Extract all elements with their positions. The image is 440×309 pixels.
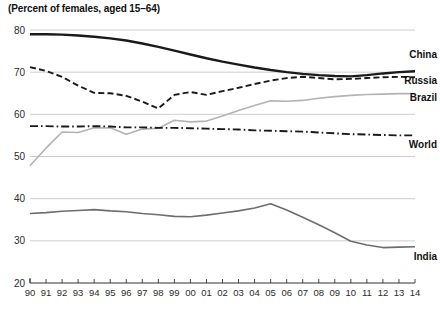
x-axis-tick-label: 05 bbox=[265, 287, 276, 298]
x-axis-tick-label: 10 bbox=[346, 287, 357, 298]
series-line-russia bbox=[30, 67, 415, 108]
x-axis-tick-label: 13 bbox=[394, 287, 405, 298]
x-axis-tick-labels: 9091929394959697989900010203040506070809… bbox=[25, 287, 421, 298]
y-axis-tick-label: 60 bbox=[14, 109, 26, 120]
x-axis-tick-label: 14 bbox=[410, 287, 421, 298]
y-axis-tick-label: 40 bbox=[14, 193, 26, 204]
x-axis-tick-label: 93 bbox=[73, 287, 84, 298]
y-axis-tick-label: 30 bbox=[14, 235, 26, 246]
x-axis-tick-label: 07 bbox=[297, 287, 308, 298]
x-axis bbox=[30, 278, 415, 283]
x-axis-tick-label: 00 bbox=[185, 287, 196, 298]
series-line-china bbox=[30, 34, 415, 76]
x-axis-tick-label: 06 bbox=[281, 287, 292, 298]
x-axis-tick-label: 09 bbox=[330, 287, 341, 298]
x-axis-tick-label: 95 bbox=[105, 287, 116, 298]
x-axis-tick-label: 08 bbox=[313, 287, 324, 298]
series-label-world: World bbox=[409, 139, 437, 150]
x-axis-tick-label: 98 bbox=[153, 287, 164, 298]
x-axis-tick-label: 04 bbox=[249, 287, 260, 298]
x-axis-tick-label: 02 bbox=[217, 287, 228, 298]
x-axis-tick-label: 01 bbox=[201, 287, 212, 298]
line-chart-plot: 20304050607080 9091929394959697989900010… bbox=[0, 0, 440, 309]
x-axis-tick-label: 97 bbox=[137, 287, 148, 298]
series-labels: ChinaRussiaBrazilWorldIndia bbox=[404, 49, 437, 262]
y-axis-tick-labels: 20304050607080 bbox=[14, 25, 26, 289]
x-axis-tick-label: 90 bbox=[25, 287, 36, 298]
y-axis-tick-label: 80 bbox=[14, 25, 26, 36]
x-axis-tick-label: 94 bbox=[89, 287, 100, 298]
y-axis-tick-label: 20 bbox=[14, 278, 26, 289]
x-axis-tick-label: 99 bbox=[169, 287, 180, 298]
y-axis-tick-label: 50 bbox=[14, 151, 26, 162]
x-axis-tick-label: 12 bbox=[378, 287, 389, 298]
x-axis-tick-label: 96 bbox=[121, 287, 132, 298]
x-axis-tick-label: 91 bbox=[41, 287, 52, 298]
data-series bbox=[30, 34, 415, 247]
x-axis-tick-label: 92 bbox=[57, 287, 68, 298]
series-line-world bbox=[30, 126, 415, 135]
chart-container: (Percent of females, aged 15–64) 2030405… bbox=[0, 0, 440, 309]
series-label-brazil: Brazil bbox=[410, 92, 437, 103]
y-axis-tick-label: 70 bbox=[14, 67, 26, 78]
series-label-india: India bbox=[414, 251, 438, 262]
series-label-russia: Russia bbox=[404, 75, 437, 86]
x-axis-tick-label: 11 bbox=[362, 287, 372, 298]
x-axis-tick-label: 03 bbox=[233, 287, 244, 298]
series-label-china: China bbox=[409, 49, 437, 60]
